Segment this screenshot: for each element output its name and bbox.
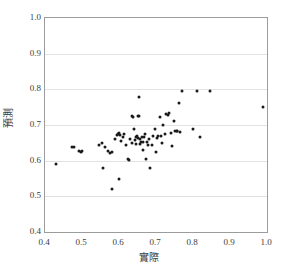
data-point [138,96,141,99]
data-point [142,148,145,151]
data-point [163,132,166,135]
data-point [171,145,174,148]
data-point [177,101,180,104]
x-axis-tick-label: 0.6 [103,238,133,247]
data-point [143,135,146,138]
data-point [148,138,151,141]
data-point [134,142,137,145]
x-axis-tick-label: 0.7 [140,238,170,247]
x-axis-tick-label: 1.0 [251,238,281,247]
x-axis-tick-label: 0.9 [214,238,244,247]
data-point [55,163,58,166]
data-point [117,177,120,180]
data-point [155,151,158,154]
y-axis-tick-label: 0.4 [1,227,41,236]
data-point [153,127,156,130]
x-axis-tick-labels: 0.40.50.60.70.80.91.0 [0,238,284,250]
data-point [152,134,155,137]
data-point [137,115,140,118]
data-point [144,132,147,135]
x-axis-tick-label: 0.4 [29,238,59,247]
data-point [102,166,105,169]
data-point [130,141,133,144]
data-point [179,131,182,134]
data-point [208,90,211,93]
y-axis-title-text: 預測 [3,108,14,128]
data-point [110,188,113,191]
gridline-horizontal [45,125,267,126]
data-point [81,150,84,153]
data-point [172,119,175,122]
x-axis-title: 實際 [0,252,284,263]
data-point [192,127,195,130]
data-point [169,131,172,134]
data-point [168,111,171,114]
scatter-chart: 1.00.90.80.70.60.50.4 0.40.50.60.70.80.9… [0,0,284,272]
data-point [111,150,114,153]
data-point [125,143,128,146]
y-axis-tick-label: 0.9 [1,48,41,57]
y-axis-tick-label: 1.0 [1,13,41,22]
data-point [150,143,153,146]
gridline-horizontal [45,54,267,55]
data-point [141,141,144,144]
data-point [132,116,135,119]
data-point [149,166,152,169]
data-point [104,146,107,149]
data-point [120,139,123,142]
y-axis-title: 預測 [3,88,14,148]
gridline-horizontal [45,89,267,90]
data-point [128,158,131,161]
data-point [159,134,162,137]
data-point [262,106,265,109]
data-point [122,132,125,135]
data-point [113,138,116,141]
data-point [198,136,201,139]
x-axis-tick-label: 0.5 [66,238,96,247]
data-point [145,158,148,161]
gridline-horizontal [45,196,267,197]
data-point [73,146,76,149]
data-point [160,142,163,145]
data-point [132,127,135,130]
data-point [100,142,103,145]
plot-area [44,17,268,233]
x-axis-tick-label: 0.8 [177,238,207,247]
data-point [121,136,124,139]
data-point [158,116,161,119]
data-point [180,90,183,93]
data-point [129,137,132,140]
data-point [162,124,165,127]
y-axis-tick-label: 0.6 [1,155,41,164]
gridline-horizontal [45,161,267,162]
y-axis-tick-label: 0.5 [1,191,41,200]
data-point [195,90,198,93]
x-axis-title-text: 實際 [125,252,159,263]
